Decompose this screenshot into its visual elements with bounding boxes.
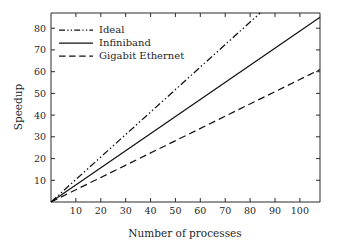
x-tick-label-40: 40 <box>145 205 157 216</box>
series-line-gigabit-ethernet <box>51 70 320 203</box>
x-tick-label-80: 80 <box>244 205 256 216</box>
legend: Ideal Infiniband Gigabit Ethernet <box>59 24 184 61</box>
x-tick-label-90: 90 <box>269 205 281 216</box>
y-tick-labels: 10 20 30 40 50 60 70 80 <box>34 23 46 186</box>
x-tick-label-10: 10 <box>70 205 82 216</box>
y-tick-label-40: 40 <box>34 110 46 121</box>
y-tick-label-50: 50 <box>34 88 46 99</box>
y-tick-label-60: 60 <box>34 66 46 77</box>
series-line-infiniband <box>51 17 320 202</box>
x-tick-label-50: 50 <box>169 205 181 216</box>
x-tick-label-60: 60 <box>194 205 206 216</box>
x-tick-labels: 10 20 30 40 50 60 70 80 90 100 <box>70 205 309 216</box>
y-tick-label-10: 10 <box>34 175 46 186</box>
legend-entry-gigabit-ethernet[interactable]: Gigabit Ethernet <box>59 50 184 61</box>
y-tick-label-30: 30 <box>34 131 46 142</box>
y-tick-label-20: 20 <box>34 153 46 164</box>
x-tick-label-100: 100 <box>291 205 309 216</box>
legend-label-gigabit-ethernet: Gigabit Ethernet <box>99 50 184 61</box>
legend-label-ideal: Ideal <box>99 24 124 35</box>
y-tick-marks <box>51 28 320 180</box>
x-tick-label-30: 30 <box>120 205 132 216</box>
y-tick-label-70: 70 <box>34 44 46 55</box>
speedup-chart-figure: 10 20 30 40 50 60 70 80 90 100 10 20 30 … <box>0 0 338 249</box>
chart-canvas: 10 20 30 40 50 60 70 80 90 100 10 20 30 … <box>0 0 338 249</box>
series-line-ideal <box>51 13 260 202</box>
legend-entry-ideal[interactable]: Ideal <box>59 24 124 35</box>
data-series-group <box>51 13 320 202</box>
legend-entry-infiniband[interactable]: Infiniband <box>59 37 152 48</box>
legend-label-infiniband: Infiniband <box>99 37 152 48</box>
x-tick-label-70: 70 <box>219 205 231 216</box>
y-axis-title: Speedup <box>12 83 24 130</box>
x-tick-label-20: 20 <box>95 205 107 216</box>
y-tick-label-80: 80 <box>34 23 46 34</box>
x-axis-title: Number of processes <box>128 227 241 239</box>
